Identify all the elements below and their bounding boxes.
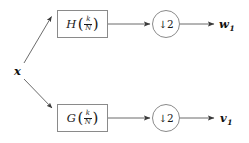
filter-g-fraction: k N	[83, 110, 92, 126]
filter-h-close-paren: )	[93, 17, 99, 32]
output-label-v1-base: v	[220, 111, 227, 125]
connector-input-to-g	[24, 79, 52, 108]
output-label-w1-base: w	[219, 17, 229, 31]
filter-h-denominator: N	[84, 24, 92, 32]
filter-h-numerator: k	[85, 16, 91, 23]
input-label-x-text: x	[14, 64, 21, 78]
filter-g-denominator: N	[84, 118, 92, 126]
down-arrow-icon-bottom: ↓	[158, 113, 167, 124]
downsampler-factor-bottom: 2	[167, 112, 173, 124]
downsampler-top: ↓2	[152, 10, 180, 38]
filter-g-close-paren: )	[92, 111, 98, 126]
connector-layer	[0, 0, 249, 143]
filter-h-name: H	[66, 17, 78, 31]
down-arrow-icon-top: ↓	[158, 19, 167, 30]
output-label-w1-subscript: 1	[229, 24, 235, 33]
downsampler-bottom: ↓2	[152, 104, 180, 132]
filter-h-fraction: k N	[84, 16, 93, 32]
input-label-x: x	[14, 64, 21, 78]
filter-h-expression: H ( k N )	[66, 16, 98, 32]
filter-bank-diagram: x H ( k N ) ↓2 w1 G ( k N )	[0, 0, 249, 143]
output-label-w1: w1	[219, 17, 235, 33]
downsampler-factor-top: 2	[167, 18, 173, 30]
filter-box-g: G ( k N )	[57, 104, 108, 132]
output-label-v1-subscript: 1	[227, 118, 233, 127]
filter-g-name: G	[67, 111, 78, 125]
connector-input-to-h	[24, 17, 52, 64]
output-label-v1: v1	[220, 111, 232, 127]
filter-box-h: H ( k N )	[57, 10, 108, 38]
filter-g-numerator: k	[85, 110, 91, 117]
filter-g-expression: G ( k N )	[67, 110, 99, 126]
